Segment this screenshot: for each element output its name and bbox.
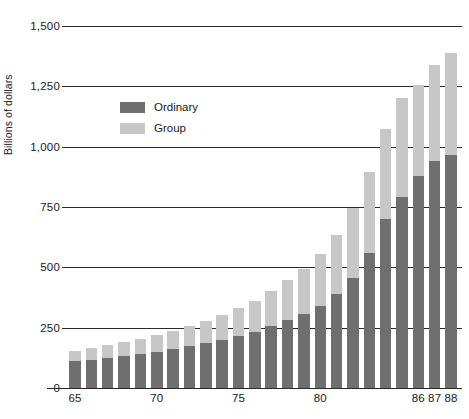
legend-swatch-icon [120,102,145,113]
bar-segment-ordinary [429,161,441,388]
y-axis-tick-label: 1,250 [0,80,60,92]
bar-segment-ordinary [167,349,179,388]
bar-segment-ordinary [396,197,408,388]
bar-segment-ordinary [298,314,310,388]
bar-77 [265,291,277,388]
bar-segment-ordinary [282,320,294,388]
bar-segment-ordinary [69,361,81,388]
legend-label: Group [154,123,186,135]
bar-81 [331,235,343,388]
bar-segment-group [184,326,196,346]
bar-segment-ordinary [135,354,147,388]
bar-segment-group [118,342,130,356]
x-axis-tick-label: 87 [428,392,441,404]
bar-74 [216,315,228,388]
bar-84 [380,129,392,388]
x-axis-tick-label: 80 [314,392,327,404]
bar-segment-ordinary [413,176,425,388]
legend-item-group: Group [120,120,198,137]
x-axis-tick-label: 75 [232,392,245,404]
bar-segment-ordinary [86,360,98,388]
plot-area [62,0,462,388]
bar-65 [69,351,81,388]
bar-71 [167,331,179,388]
y-axis-tick-label: 750 [0,201,60,213]
bar-87 [429,65,441,388]
bar-80 [315,254,327,388]
bar-segment-ordinary [265,326,277,388]
bar-segment-ordinary [331,294,343,388]
bar-segment-ordinary [347,278,359,388]
bar-segment-group [249,301,261,332]
axis-baseline [47,388,462,389]
bar-segment-ordinary [249,332,261,388]
bar-segment-ordinary [364,253,376,388]
bar-segment-ordinary [200,343,212,388]
x-axis-tick-label: 88 [444,392,457,404]
bar-segment-group [315,254,327,306]
bar-segment-group [396,98,408,197]
bar-79 [298,269,310,388]
bar-segment-ordinary [102,358,114,388]
bar-segment-group [445,53,457,156]
bar-segment-group [380,129,392,220]
bar-72 [184,326,196,388]
bar-segment-group [298,269,310,315]
bar-86 [413,85,425,388]
bar-69 [135,339,147,388]
bar-segment-ordinary [151,352,163,388]
bar-segment-group [86,348,98,360]
y-axis-tick-label: 500 [0,261,60,273]
bar-segment-group [135,339,147,354]
x-axis-tick-label: 70 [150,392,163,404]
bar-73 [200,321,212,388]
bar-68 [118,342,130,388]
bar-76 [249,301,261,388]
bar-segment-ordinary [216,340,228,388]
bar-segment-group [429,65,441,162]
bar-83 [364,172,376,388]
y-axis-tick-label: 1,000 [0,141,60,153]
bar-85 [396,98,408,388]
bar-segment-group [102,345,114,358]
bar-segment-group [167,331,179,349]
bar-segment-ordinary [315,306,327,388]
bar-segment-group [265,291,277,326]
bar-segment-ordinary [118,356,130,388]
y-axis-tick-label: 1,500 [0,20,60,32]
bar-segment-group [151,335,163,351]
bar-segment-ordinary [445,155,457,388]
bar-67 [102,345,114,388]
bar-78 [282,280,294,388]
x-axis-tick-label: 86 [412,392,425,404]
legend-label: Ordinary [154,102,198,114]
bar-segment-group [364,172,376,253]
bar-chart: Billions of dollars 02505007501,0001,250… [0,0,469,419]
bar-segment-group [233,308,245,336]
legend-item-ordinary: Ordinary [120,99,198,116]
bar-segment-group [347,208,359,278]
bar-segment-ordinary [380,219,392,388]
bar-segment-group [200,321,212,343]
bar-82 [347,208,359,388]
chart-legend: OrdinaryGroup [120,99,198,141]
bar-segment-ordinary [184,346,196,388]
bar-75 [233,308,245,388]
bar-88 [445,53,457,388]
bar-segment-group [282,280,294,321]
legend-swatch-icon [120,123,145,134]
x-axis-tick-label: 65 [68,392,81,404]
bar-segment-group [216,315,228,340]
y-axis-tick-label: 250 [0,322,60,334]
y-axis-title: Billions of dollars [2,35,14,155]
bar-segment-group [413,85,425,176]
bar-segment-group [69,351,81,362]
bar-segment-ordinary [233,336,245,388]
bar-66 [86,348,98,388]
bar-segment-group [331,235,343,294]
bar-70 [151,335,163,388]
